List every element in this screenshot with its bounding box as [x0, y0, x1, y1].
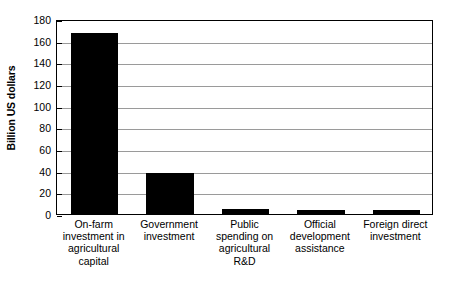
y-tick-label: 180: [33, 15, 51, 26]
y-tick-label: 160: [33, 36, 51, 47]
bar: [297, 210, 345, 214]
y-tick-label: 100: [33, 101, 51, 112]
bars-group: [57, 21, 432, 214]
y-tick-label: 20: [39, 188, 51, 199]
y-tick-label: 120: [33, 80, 51, 91]
bar-chart-figure: Billion US dollars 020406080100120140160…: [0, 0, 449, 285]
x-category-label: On-farm investment in agricultural capit…: [59, 218, 128, 267]
y-tick-label: 0: [45, 210, 51, 221]
y-axis-title: Billion US dollars: [0, 0, 22, 215]
y-tick-label: 40: [39, 166, 51, 177]
x-category-label: Government investment: [134, 218, 203, 242]
x-category-label: Foreign direct investment: [361, 218, 430, 242]
bar: [222, 209, 270, 214]
y-tick-label: 80: [39, 123, 51, 134]
bar: [373, 210, 421, 214]
plot-area: [56, 20, 433, 215]
y-tick-label: 140: [33, 58, 51, 69]
y-axis-tick-labels: 020406080100120140160180: [22, 20, 54, 215]
y-tick-mark: [57, 216, 62, 217]
x-category-label: Official development assistance: [285, 218, 354, 255]
x-axis-category-labels: On-farm investment in agricultural capit…: [56, 218, 433, 282]
y-tick-label: 60: [39, 145, 51, 156]
bar: [146, 173, 194, 214]
y-axis-title-text: Billion US dollars: [5, 65, 17, 150]
x-category-label: Public spending on agricultural R&D: [210, 218, 279, 267]
bar: [71, 33, 119, 214]
